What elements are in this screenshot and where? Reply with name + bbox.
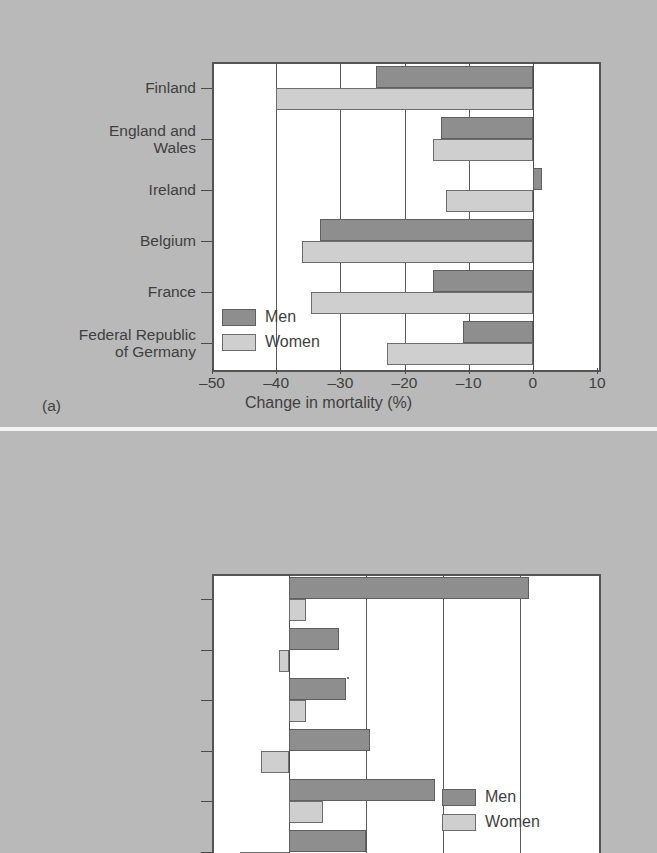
y-axis-category-label: England and Wales [0,122,196,156]
x-tick-label: –50 [199,374,225,392]
y-axis-category-label: Finland [0,79,196,96]
legend-label-women: Women [485,813,540,831]
y-tick [201,88,212,89]
bar-men [463,321,533,343]
gridline [366,574,367,853]
legend-label-women: Women [265,333,320,351]
x-tick-label: –10 [456,374,482,392]
bar-men [533,168,543,190]
legend-b: Men Women [442,786,540,836]
bar-women [289,801,323,823]
bar-men [289,830,366,852]
y-tick [201,292,212,293]
legend-item-men-b: Men [442,786,540,808]
legend-label-men: Men [485,788,516,806]
y-tick [201,751,212,752]
legend-item-men-a: Men [222,306,320,328]
plot-area-a: Men Women [212,62,601,372]
legend-label-men: Men [265,308,296,326]
bar-women [261,751,289,773]
bar-men [376,66,533,88]
zero-line [533,62,534,372]
bar-men [289,628,339,650]
bar-women [289,599,306,621]
bar-men [289,779,435,801]
bar-men [289,729,370,751]
print-speck [347,677,349,679]
y-tick [201,241,212,242]
bar-women [279,650,289,672]
y-tick [201,190,212,191]
x-tick-label: 0 [529,374,538,392]
bar-women [433,139,533,161]
figure-root: Men Women FinlandEngland and WalesIrelan… [0,0,657,853]
y-axis-category-label: Belgium [0,232,196,249]
bar-women [276,88,533,110]
y-tick [201,650,212,651]
panel-a: Men Women FinlandEngland and WalesIrelan… [0,0,657,427]
legend-swatch-men-icon [222,309,256,326]
bar-women [446,190,533,212]
legend-swatch-women-icon [222,334,256,351]
legend-item-women-a: Women [222,331,320,353]
legend-swatch-men-icon [442,789,476,806]
y-tick [201,801,212,802]
x-tick-label: –40 [263,374,289,392]
bar-men [441,117,533,139]
y-tick [201,139,212,140]
legend-a: Men Women [222,306,320,356]
panel-b: Men Women BulgariaCzechGerman Democratic… [0,431,657,853]
bar-men [289,577,529,599]
y-axis-category-label: Federal Republic of Germany [0,326,196,360]
bar-men [320,219,532,241]
x-tick-label: 10 [588,374,605,392]
bar-women [387,343,533,365]
y-tick [201,700,212,701]
y-tick [201,599,212,600]
x-axis-title-a: Change in mortality (%) [0,394,657,412]
bar-women [289,700,306,722]
bar-men [289,678,346,700]
plot-frame-b [212,574,601,853]
bar-men [433,270,533,292]
legend-swatch-women-icon [442,814,476,831]
plot-area-b: Men Women [212,574,601,853]
bar-women [302,241,532,263]
y-axis-category-label: France [0,283,196,300]
legend-item-women-b: Women [442,811,540,833]
panel-tag-a: (a) [42,397,61,415]
x-tick-label: –20 [392,374,418,392]
y-axis-category-label: Ireland [0,181,196,198]
x-tick-label: –30 [327,374,353,392]
y-tick [201,343,212,344]
bar-women [311,292,533,314]
